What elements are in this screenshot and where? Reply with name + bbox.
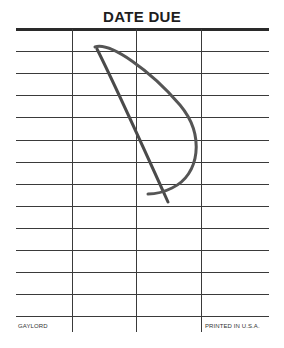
publisher-label: GAYLORD [18, 323, 48, 329]
handwritten-d-mark [0, 0, 284, 348]
printed-label: PRINTED IN U.S.A. [205, 323, 260, 329]
